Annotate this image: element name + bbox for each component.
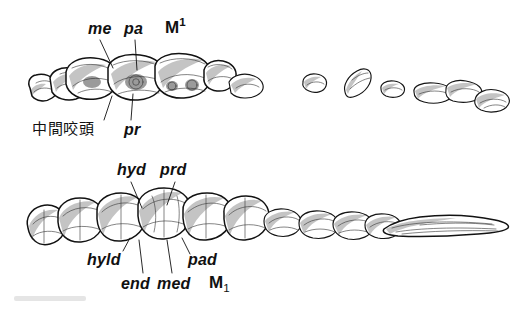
leader-lines xyxy=(100,40,190,273)
leader-pa xyxy=(135,40,137,70)
label-pr: pr xyxy=(124,122,140,138)
label-m-upper-letter: M xyxy=(165,18,179,37)
label-chukan-koto: 中間咬頭 xyxy=(32,122,94,137)
label-prd: prd xyxy=(160,162,186,178)
leader-prd xyxy=(167,182,175,205)
leader-hyd xyxy=(131,182,142,208)
label-pa: pa xyxy=(124,21,143,37)
leader-pr xyxy=(131,94,133,120)
tooth-row-figure: me pa M1 中間咬頭 pr hyd prd hyld pad end me… xyxy=(0,0,520,311)
leader-chukan-koto xyxy=(104,96,112,120)
label-m-lower-letter: M xyxy=(209,273,223,292)
anatomical-line-drawing xyxy=(0,0,520,311)
label-me: me xyxy=(88,21,112,37)
label-hyd: hyd xyxy=(117,162,146,178)
lower-tooth-row-artwork xyxy=(27,188,508,245)
leader-end xyxy=(139,240,143,273)
label-m-lower-index: 1 xyxy=(223,282,229,294)
label-end: end xyxy=(121,276,150,292)
plate-smudge xyxy=(14,296,86,301)
label-m-upper: M1 xyxy=(165,19,186,36)
leader-hyld xyxy=(123,238,130,251)
label-pad: pad xyxy=(188,252,217,268)
upper-tooth-row-artwork xyxy=(29,54,510,112)
leader-me xyxy=(100,40,113,68)
label-m-lower: M1 xyxy=(209,274,230,291)
label-hyld: hyld xyxy=(87,252,121,268)
leader-med xyxy=(167,240,172,273)
label-med: med xyxy=(157,276,191,292)
label-m-upper-index: 1 xyxy=(179,16,185,28)
